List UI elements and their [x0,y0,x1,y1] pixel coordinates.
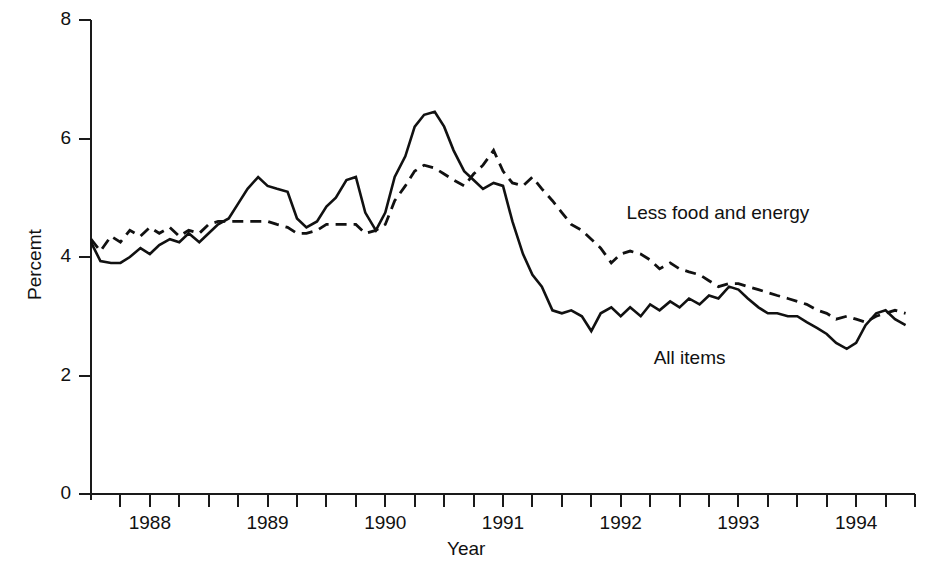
y-tick-label: 2 [39,364,71,386]
y-tick-label: 0 [39,482,71,504]
chart-figure: 02468 1988198919901991199219931994 Perce… [0,0,934,565]
x-minor-tick-marks [120,494,915,507]
x-tick-label: 1993 [698,512,778,534]
data-series-group [91,112,906,349]
chart-plot-area [0,0,934,565]
y-axis-title: Percemt [24,229,46,300]
series-annotation-label: Less food and energy [627,202,810,224]
y-tick-label: 8 [39,8,71,30]
x-tick-label: 1990 [345,512,425,534]
x-tick-label: 1992 [581,512,661,534]
series-annotation-label: All items [654,347,726,369]
series-line-all-items [91,112,906,349]
y-tick-label: 6 [39,127,71,149]
y-tick-marks [79,20,91,494]
x-tick-label: 1989 [228,512,308,534]
x-tick-label: 1994 [816,512,896,534]
axes-group [85,20,915,500]
x-tick-label: 1988 [110,512,190,534]
series-line-less-food-and-energy [91,150,906,322]
x-tick-label: 1991 [463,512,543,534]
x-axis-title: Year [447,538,485,560]
